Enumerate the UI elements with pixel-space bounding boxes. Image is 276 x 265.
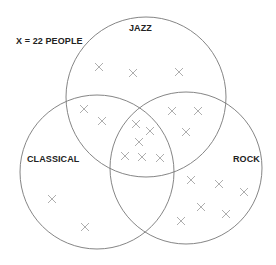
person-mark-icon <box>177 217 185 225</box>
person-mark-icon <box>222 210 230 218</box>
person-mark-icon <box>146 127 154 135</box>
person-mark-icon <box>168 107 176 115</box>
set-circle-classical <box>20 95 174 249</box>
person-mark-icon <box>95 63 103 71</box>
person-mark-icon <box>182 128 190 136</box>
legend-label: X = 22 PEOPLE <box>16 36 83 46</box>
person-mark-icon <box>129 69 137 77</box>
set-label-rock: ROCK <box>233 154 260 164</box>
person-mark-icon <box>98 117 106 125</box>
person-mark-icon <box>132 120 140 128</box>
person-mark-icon <box>215 180 223 188</box>
person-mark-icon <box>197 203 205 211</box>
person-mark-icon <box>138 153 146 161</box>
person-mark-icon <box>194 107 202 115</box>
person-mark-icon <box>135 138 143 146</box>
set-label-classical: CLASSICAL <box>27 154 79 164</box>
person-mark-icon <box>240 188 248 196</box>
person-mark-icon <box>187 176 195 184</box>
person-mark-icon <box>48 195 56 203</box>
person-mark-icon <box>175 68 183 76</box>
person-mark-icon <box>121 152 129 160</box>
person-mark-icon <box>80 105 88 113</box>
set-label-jazz: JAZZ <box>129 23 152 33</box>
set-circle-rock <box>110 92 262 244</box>
person-mark-icon <box>156 154 164 162</box>
person-mark-icon <box>81 223 89 231</box>
